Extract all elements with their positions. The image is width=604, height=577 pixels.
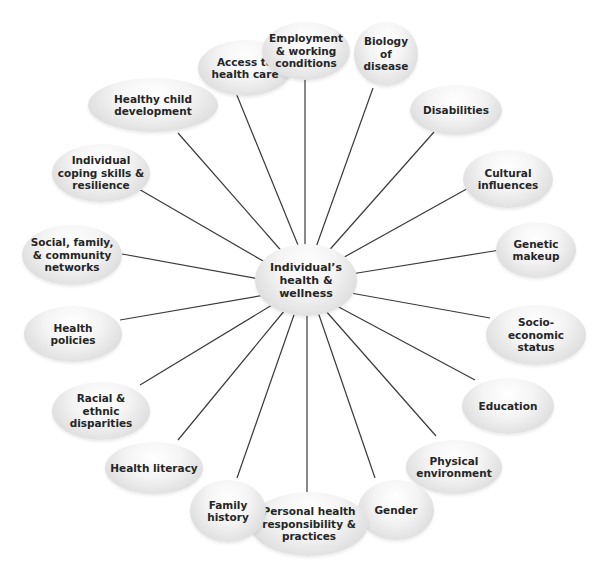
health-determinants-diagram: Individual’s health & wellness Access to… (0, 0, 604, 577)
node-family-history: Family history (190, 480, 266, 542)
node-biology-of-disease: Biology of disease (354, 22, 418, 86)
node-education: Education (462, 378, 554, 434)
node-disabilities: Disabilities (410, 85, 502, 135)
node-coping-skills-resilience: Individual coping skills & resilience (52, 144, 150, 202)
node-racial-ethnic-disparities: Racial & ethnic disparities (52, 382, 150, 440)
node-personal-health-responsibility: Personal health responsibility & practic… (250, 492, 368, 556)
node-employment: Employment & working conditions (262, 22, 350, 80)
node-health-literacy: Health literacy (105, 442, 203, 494)
node-physical-environment: Physical environment (406, 440, 502, 494)
node-cultural-influences: Cultural influences (463, 150, 553, 208)
center-label: Individual’s health & wellness (270, 261, 342, 300)
node-health-policies: Health policies (24, 306, 122, 362)
node-gender: Gender (358, 480, 434, 540)
node-social-family-community: Social, family, & community networks (22, 225, 122, 285)
node-genetic-makeup: Genetic makeup (496, 222, 576, 278)
node-socioeconomic-status: Socio- economic status (486, 305, 586, 365)
node-healthy-child-development: Healthy child development (88, 78, 218, 132)
center-node-individual-health: Individual’s health & wellness (255, 244, 357, 316)
